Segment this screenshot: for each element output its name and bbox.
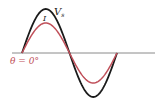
vs-label: Vs xyxy=(54,6,64,18)
phase-angle-label: θ = 0° xyxy=(10,56,39,66)
i-label: I xyxy=(42,14,47,23)
waveform-diagram: Vs I θ = 0° xyxy=(0,0,155,102)
